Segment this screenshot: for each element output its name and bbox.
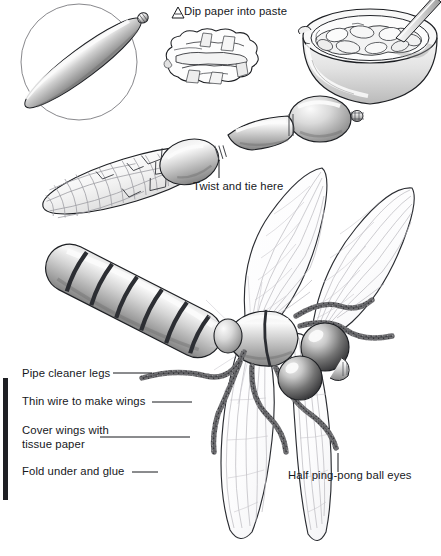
label-dip-paper-into-paste: Dip paper into paste [184, 5, 287, 18]
label-fold-under-and-glue: Fold under and glue [22, 465, 124, 478]
label-half-ping-pong-ball-eyes: Half ping-pong ball eyes [288, 469, 412, 482]
torn-paper-pile [164, 29, 258, 84]
label-thin-wire-to-make-wings: Thin wire to make wings [22, 395, 145, 408]
label-cover-wings-line1: Cover wings with [22, 424, 109, 437]
label-cover-wings-line2: tissue paper [22, 438, 85, 451]
label-twist-and-tie-here: Twist and tie here [193, 180, 283, 193]
label-pipe-cleaner-legs: Pipe cleaner legs [22, 367, 110, 380]
left-margin-bar [3, 378, 8, 500]
illustration-page: Dip paper into paste Twist and tie here … [0, 0, 441, 556]
eye-lower [278, 356, 322, 400]
abdomen-thorax-joint [214, 319, 242, 353]
